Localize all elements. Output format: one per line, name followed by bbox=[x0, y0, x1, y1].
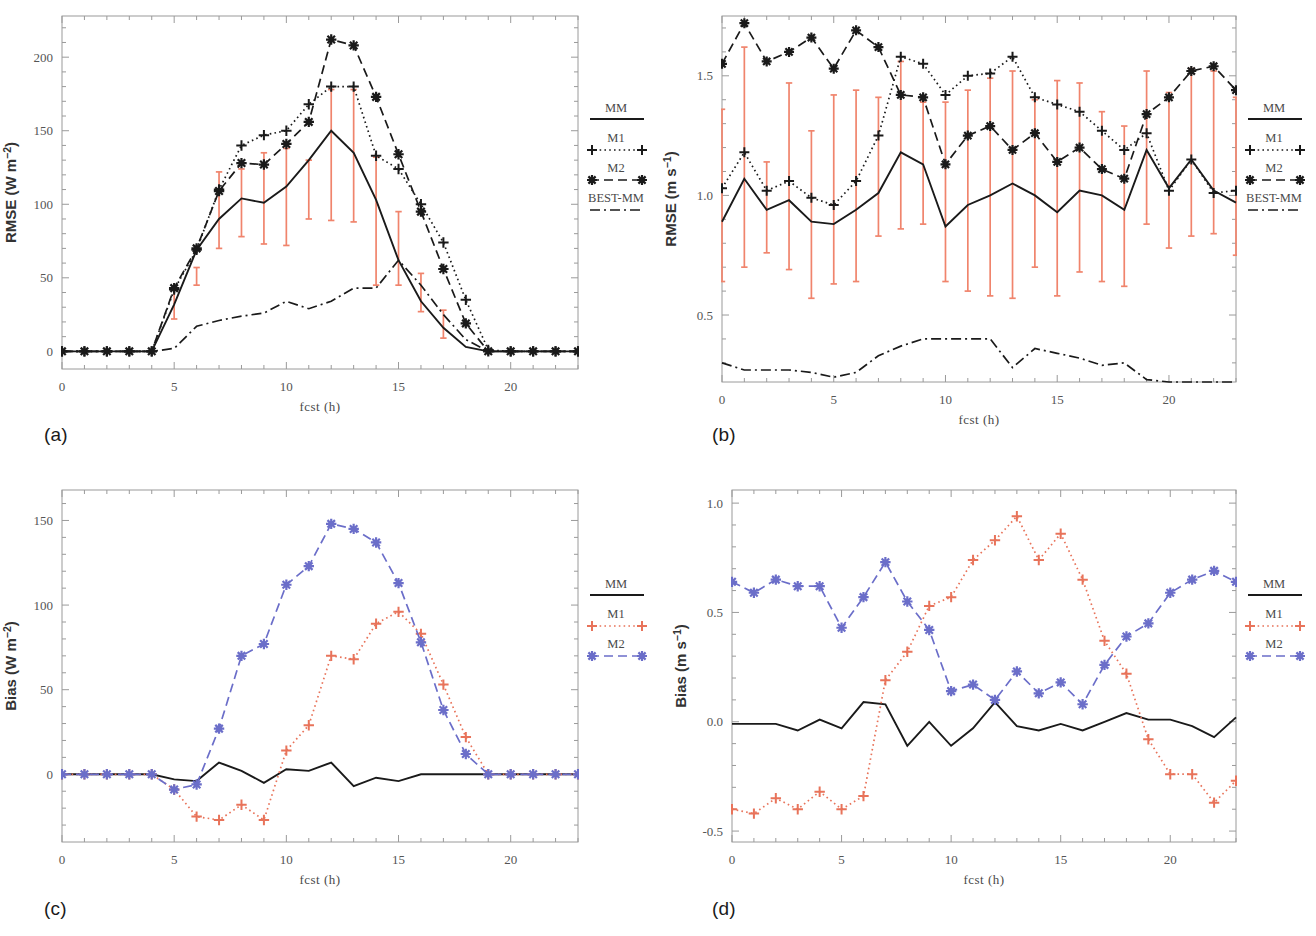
x-axis-title: fcst (h) bbox=[958, 412, 999, 427]
panel-b: 0.51.01.505101520fcst (h)RMSE (m s−1)MMM… bbox=[660, 0, 1316, 460]
marker-star bbox=[1142, 109, 1152, 119]
marker-star bbox=[963, 131, 973, 141]
y-axis-title: RMSE (m s−1) bbox=[661, 151, 679, 246]
marker-star bbox=[587, 175, 597, 185]
marker-star bbox=[236, 158, 246, 168]
y-tick-label: 50 bbox=[40, 682, 53, 697]
marker-star bbox=[1008, 145, 1018, 155]
panel-c-svg: 05010015005101520fcst (h)Bias (W m−2)MMM… bbox=[0, 460, 660, 936]
marker-star bbox=[416, 206, 426, 216]
marker-plus bbox=[587, 621, 597, 631]
marker-plus bbox=[1012, 511, 1022, 521]
marker-star bbox=[1209, 566, 1219, 576]
panel-a-svg: 05010015020005101520fcst (h)RMSE (W m−2)… bbox=[0, 0, 660, 460]
x-tick-label: 20 bbox=[504, 379, 517, 394]
series-markers-m1 bbox=[727, 511, 1241, 819]
panel-b-svg: 0.51.01.505101520fcst (h)RMSE (m s−1)MMM… bbox=[660, 0, 1316, 460]
marker-star bbox=[1052, 157, 1062, 167]
error-bars bbox=[719, 47, 1239, 298]
y-axis-title: Bias (m s−1) bbox=[671, 624, 689, 708]
marker-star bbox=[326, 519, 336, 529]
marker-plus bbox=[461, 732, 471, 742]
plot-frame bbox=[62, 490, 578, 842]
x-tick-label: 10 bbox=[945, 852, 958, 867]
marker-plus bbox=[191, 811, 201, 821]
marker-plus bbox=[587, 145, 597, 155]
axis-ticks bbox=[722, 16, 1236, 382]
marker-star bbox=[1012, 666, 1022, 676]
marker-star bbox=[1077, 699, 1087, 709]
marker-star bbox=[990, 695, 1000, 705]
marker-star bbox=[1165, 588, 1175, 598]
marker-star bbox=[416, 637, 426, 647]
x-axis-title: fcst (h) bbox=[963, 872, 1004, 887]
legend-item-best-mm: BEST-MM bbox=[588, 191, 644, 205]
y-tick-label: 0 bbox=[47, 767, 54, 782]
marker-star bbox=[1099, 660, 1109, 670]
marker-plus bbox=[1231, 186, 1241, 196]
y-tick-label: 50 bbox=[40, 270, 53, 285]
series-markers-m2 bbox=[57, 519, 583, 795]
marker-plus bbox=[946, 592, 956, 602]
x-tick-label: 5 bbox=[171, 852, 178, 867]
marker-plus bbox=[326, 651, 336, 661]
marker-star bbox=[124, 769, 134, 779]
x-tick-label: 15 bbox=[392, 852, 405, 867]
x-tick-label: 20 bbox=[1162, 392, 1175, 407]
marker-star bbox=[924, 625, 934, 635]
legend-item-m2: M2 bbox=[1265, 161, 1282, 175]
axis-ticks bbox=[62, 16, 578, 369]
marker-star bbox=[281, 580, 291, 590]
marker-plus bbox=[438, 679, 448, 689]
marker-plus bbox=[637, 145, 647, 155]
marker-star bbox=[637, 175, 647, 185]
marker-star bbox=[1034, 688, 1044, 698]
marker-plus bbox=[1030, 92, 1040, 102]
panel-tag-d: (d) bbox=[712, 898, 736, 920]
svg-text:RMSE (W m−2): RMSE (W m−2) bbox=[1, 142, 19, 243]
marker-plus bbox=[461, 295, 471, 305]
marker-plus bbox=[880, 675, 890, 685]
marker-star bbox=[1075, 143, 1085, 153]
marker-star bbox=[326, 34, 336, 44]
marker-star bbox=[587, 651, 597, 661]
x-tick-label: 15 bbox=[1054, 852, 1067, 867]
figure-root: 05010015020005101520fcst (h)RMSE (W m−2)… bbox=[0, 0, 1316, 936]
plot-frame bbox=[62, 16, 578, 369]
series-line-m2 bbox=[732, 562, 1236, 704]
marker-star bbox=[573, 769, 583, 779]
marker-star bbox=[851, 25, 861, 35]
marker-plus bbox=[348, 654, 358, 664]
marker-star bbox=[814, 581, 824, 591]
marker-plus bbox=[1245, 145, 1255, 155]
marker-star bbox=[528, 769, 538, 779]
marker-star bbox=[1231, 85, 1241, 95]
x-tick-label: 5 bbox=[838, 852, 845, 867]
marker-plus bbox=[858, 791, 868, 801]
marker-star bbox=[873, 42, 883, 52]
panel-d: -0.50.00.51.005101520fcst (h)Bias (m s−1… bbox=[660, 460, 1316, 936]
marker-plus bbox=[1099, 636, 1109, 646]
legend: MMM1M2BEST-MM bbox=[1245, 101, 1305, 210]
marker-star bbox=[169, 784, 179, 794]
marker-plus bbox=[1209, 188, 1219, 198]
legend-item-m1: M1 bbox=[1265, 607, 1282, 621]
marker-star bbox=[1119, 174, 1129, 184]
marker-star bbox=[304, 561, 314, 571]
plot-area bbox=[57, 34, 583, 356]
marker-plus bbox=[749, 808, 759, 818]
axis-ticks bbox=[732, 490, 1236, 842]
marker-star bbox=[836, 623, 846, 633]
legend-item-best-mm: BEST-MM bbox=[1246, 191, 1302, 205]
series-line-m1 bbox=[62, 87, 578, 352]
legend-title: MM bbox=[605, 577, 627, 591]
marker-star bbox=[1121, 631, 1131, 641]
marker-plus bbox=[1209, 797, 1219, 807]
plot-area bbox=[717, 18, 1241, 382]
marker-star bbox=[902, 596, 912, 606]
marker-plus bbox=[438, 237, 448, 247]
marker-star bbox=[793, 581, 803, 591]
marker-star bbox=[896, 90, 906, 100]
marker-star bbox=[393, 578, 403, 588]
plot-area bbox=[57, 519, 583, 826]
